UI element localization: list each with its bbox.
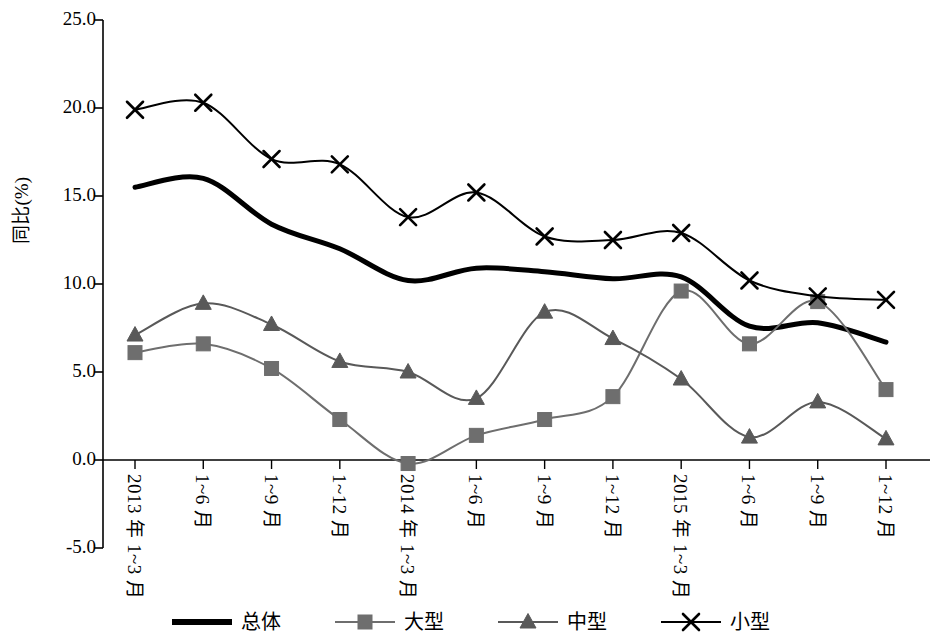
chart-container: 同比(%) 25.020.015.010.05.00.0-5.0 2013 年 …	[0, 0, 939, 639]
y-axis-tick-label: 10.0	[26, 273, 96, 292]
legend-key-triangle-marker-line-icon	[496, 611, 560, 633]
legend-label: 大型	[404, 612, 444, 632]
legend-item-大型[interactable]: 大型	[333, 611, 444, 633]
legend-label: 小型	[730, 612, 770, 632]
chart-series-中型	[127, 295, 894, 445]
y-axis-tick-label: 5.0	[26, 361, 96, 380]
legend-key-thick-line-icon	[170, 611, 234, 633]
y-axis-tick-label: -5.0	[26, 537, 96, 556]
legend-label: 中型	[567, 612, 607, 632]
legend-item-小型[interactable]: 小型	[659, 611, 770, 633]
y-axis-title: 同比(%)	[6, 214, 33, 244]
chart-legend: 总体大型中型小型	[0, 604, 939, 639]
legend-item-中型[interactable]: 中型	[496, 611, 607, 633]
chart-series-总体	[135, 177, 886, 342]
legend-key-x-marker-line-icon	[659, 611, 723, 633]
y-axis-tick-label: 0.0	[26, 449, 96, 468]
y-axis-tick-label: 15.0	[26, 185, 96, 204]
chart-axes	[94, 20, 930, 548]
legend-key-square-marker-line-icon	[333, 611, 397, 633]
y-axis-tick-label: 20.0	[26, 97, 96, 116]
legend-label: 总体	[241, 612, 281, 632]
chart-series-group	[127, 95, 894, 471]
legend-item-总体[interactable]: 总体	[170, 611, 281, 633]
y-axis-tick-label: 25.0	[26, 9, 96, 28]
